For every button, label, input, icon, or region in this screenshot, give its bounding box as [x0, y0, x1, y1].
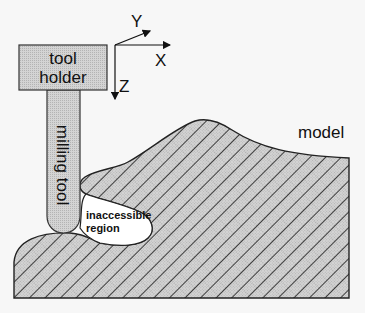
milling-tool-label: milling tool — [53, 125, 72, 205]
z-axis-label: Z — [119, 77, 129, 96]
tool-holder-label-line2: holder — [39, 68, 87, 87]
tool-holder-label-line1: tool — [49, 49, 76, 68]
inaccessible-label-line1: inaccessible — [86, 209, 151, 221]
x-axis-label: X — [155, 51, 166, 70]
model-label: model — [298, 123, 344, 142]
diagram-canvas: tool holder milling tool model inaccessi… — [0, 0, 365, 313]
y-axis-arrow — [115, 31, 150, 45]
inaccessible-label-line2: region — [86, 222, 120, 234]
coordinate-axes: X Y Z — [115, 12, 170, 99]
y-axis-label: Y — [131, 12, 142, 31]
